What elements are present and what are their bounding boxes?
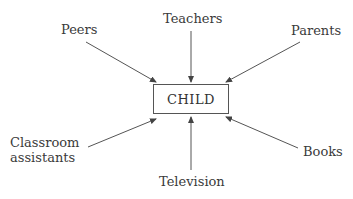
arrow-peers [86, 42, 156, 82]
node-peers: Peers [61, 22, 97, 37]
node-television: Television [159, 174, 225, 189]
arrow-classroom [88, 119, 156, 147]
arrow-parents [226, 42, 300, 82]
arrow-books [226, 117, 298, 148]
child-label: CHILD [167, 92, 215, 107]
node-parents: Parents [291, 23, 341, 38]
node-classroom-assistants: Classroom assistants [10, 135, 79, 165]
classroom-line1: Classroom [10, 135, 79, 150]
node-teachers: Teachers [163, 11, 222, 26]
node-books: Books [303, 144, 343, 159]
child-box: CHILD [153, 84, 229, 114]
classroom-line2: assistants [10, 150, 79, 165]
